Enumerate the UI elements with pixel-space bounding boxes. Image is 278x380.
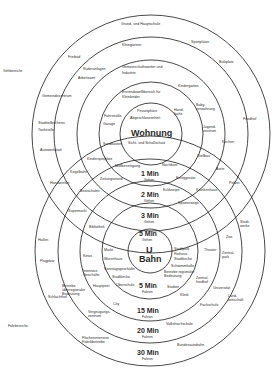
- item-stellbau: Stellbau: [197, 154, 210, 158]
- item-krankenhaus: Krankenhaus: [196, 188, 217, 192]
- label-abgeschlossenheit: Abgeschlossenheit: [130, 116, 160, 120]
- item-stadtwerke: Stadt-werke: [240, 220, 250, 228]
- diagram-canvas: Gehbereiche Fahrbereiche Privatsphäre Ab…: [0, 0, 278, 380]
- item-flaechenintensive: FlächenintensiveFabrikbetriebe: [82, 336, 109, 344]
- item-sportplaetze: Sportplätze: [191, 40, 209, 44]
- item-landwirtschaft: Land-wirtschaft: [228, 294, 243, 302]
- label-2min-mode: Gehen: [144, 199, 154, 203]
- item-kirchen: Kirchen: [222, 140, 234, 144]
- label-wohnung: Wohnung: [131, 128, 172, 138]
- item-arbeitsamt: Arbeitsamt: [78, 76, 95, 80]
- item-beatschulen: Beatschulen: [80, 189, 100, 193]
- label-fahrbereiche: Fahrbereiche: [8, 324, 28, 328]
- item-tankstelle: Tankstelle: [38, 128, 54, 132]
- item-gemeindezentrum-r3: Gemeindezentrum: [42, 94, 72, 98]
- item-stadtteilbuecherei: Stadtteilbücherei: [38, 121, 65, 125]
- item-kegelbahn: Kegelbahn: [70, 170, 87, 174]
- label-3min-mode: Gehen: [144, 220, 154, 224]
- label-gehbereiche: Gehbereiche: [3, 69, 23, 73]
- item-bibliothek: Bibliothek: [89, 225, 105, 229]
- item-zentralpark: Zentral-park: [222, 251, 235, 259]
- item-grund-hauptschule: Grund- und Hauptschule: [121, 22, 160, 26]
- item-gemeinschaft: Gemeinschaftsweiter und: [122, 65, 163, 69]
- item-hallen: Hallen: [38, 238, 48, 242]
- item-friedhof: Friedhof: [243, 117, 256, 121]
- item-autowerkstatt: Autowerkstatt: [40, 148, 62, 152]
- item-oberschule: Oberschule: [116, 283, 134, 287]
- item-vergnuegungszentrum: Vergnügungs-zentrum: [88, 310, 111, 318]
- label-15min-mode: Fahren: [142, 315, 153, 319]
- label-sicht-schallschutz: Sicht- und Schallschutz: [128, 141, 166, 145]
- item-nachbarn: Nachbarn: [162, 163, 178, 167]
- item-industrie: Industrie: [122, 71, 136, 75]
- item-hauptpost: Hauptpost: [93, 284, 109, 288]
- item-fachschule: Fachschule: [200, 303, 218, 307]
- item-handwerker: Handwerker: [50, 181, 70, 185]
- item-ruderanlagen: Ruderanlagen: [83, 67, 106, 71]
- item-babyverwahrung: Baby-verwahrung: [196, 103, 215, 111]
- label-1min-mode: Gehen: [144, 178, 154, 182]
- item-polizei: Polizei: [229, 181, 240, 185]
- item-supermarkt: Supermarkt: [68, 209, 87, 213]
- item-aerzte: Ärzte: [216, 167, 224, 171]
- label-20min-mode: Fahren: [142, 335, 153, 339]
- item-stadtpark: Stadtpark: [174, 247, 190, 251]
- item-klinik: Klinik: [180, 293, 189, 297]
- item-intensive-geschaefte: IntensiveGeschäfte: [83, 269, 99, 277]
- item-schlachthof: Schlachthof: [48, 295, 67, 299]
- label-30min-mode: Fahren: [142, 357, 153, 361]
- label-5min-fahren-mode: Fahren: [142, 290, 153, 294]
- item-markt: Markt: [104, 248, 113, 252]
- label-15min: 15 Min: [137, 307, 159, 314]
- item-sandkasten: Sandkasten: [103, 142, 122, 146]
- label-20min: 20 Min: [137, 327, 159, 334]
- item-muellbeseitigung: Müllbeseitigung: [115, 164, 140, 168]
- label-5min-gehen: 5 Min: [139, 230, 157, 237]
- item-zoo: Zoo: [226, 235, 232, 239]
- item-kleinkinder: Kleinkinder: [122, 95, 141, 99]
- item-volkshochschule: Volkshochschule: [166, 322, 193, 326]
- label-bahn: Bahn: [139, 254, 162, 264]
- item-jugendzentrum: Jugend-zentrum: [203, 125, 217, 133]
- item-universitaet: Universität: [213, 286, 230, 290]
- item-kinderspielplatz: Kinderspielplatz: [87, 157, 113, 161]
- item-theater: Theater: [204, 248, 217, 252]
- item-garage: Garage: [103, 122, 115, 126]
- item-city: City: [113, 302, 119, 306]
- item-spazierwege: Spazierwege: [178, 201, 199, 205]
- item-bundesautobahn: Bundesautobahn: [177, 343, 204, 347]
- item-stadtkirche-l: Stadtkirche: [112, 275, 130, 279]
- item-warenhaus: Warenhaus: [104, 257, 122, 261]
- label-3min: 3 Min: [141, 212, 159, 219]
- item-kindergarten: Kindergarten: [178, 84, 199, 88]
- item-fahrstrasse: Fahrstraße: [104, 114, 122, 118]
- item-sonntagsgeschaefte: Sonntagsgeschäfte: [104, 267, 135, 271]
- item-handflaeche: Hand-läche: [174, 108, 185, 116]
- item-erstendawell: Erstendawelltbereich für: [122, 90, 161, 94]
- item-kinos: Kinos: [83, 254, 92, 258]
- item-kleingaertner: Kleingärtner: [122, 43, 142, 47]
- item-eckkneipe: Eckkneipe: [163, 188, 180, 192]
- label-30min: 30 Min: [137, 349, 159, 356]
- item-bolzplatz: Bolzplatz: [219, 60, 234, 64]
- label-1min: 1 Min: [141, 170, 159, 177]
- item-zentralfriedhof: Zentral-friedhof: [196, 276, 209, 284]
- item-zeitungsstand: Zeitungsstand: [100, 177, 123, 181]
- item-schwimmhalle: Schwimmhalle: [171, 264, 194, 268]
- item-fertiggeraete: Fertiggeräte: [176, 176, 195, 180]
- label-2min: 2 Min: [141, 191, 159, 198]
- item-rathaus: Rathaus: [174, 252, 188, 256]
- item-flugplatz: Flugplatz: [40, 259, 55, 263]
- label-privatsphaere: Privatsphäre: [137, 109, 157, 113]
- label-5min-gehen-mode: Gehen: [142, 238, 152, 242]
- item-freibad: Freibad: [68, 55, 80, 59]
- item-stadion: Stadion: [167, 285, 179, 289]
- label-5min-fahren: 5 Min: [139, 282, 157, 289]
- item-stadtkirche-r: Stadtkirche: [174, 257, 192, 261]
